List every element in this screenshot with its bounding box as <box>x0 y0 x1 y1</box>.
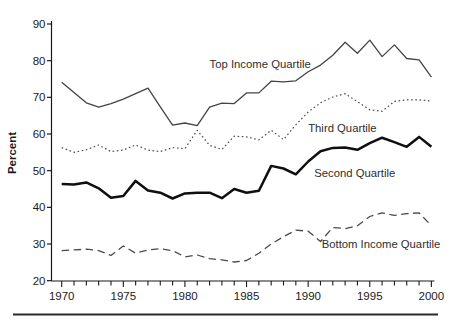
y-tick-label: 30 <box>33 238 46 250</box>
x-tick-label: 1990 <box>295 290 321 302</box>
series-label-top-income-quartile: Top Income Quartile <box>210 58 311 70</box>
x-tick-label: 1970 <box>49 290 75 302</box>
series-line-top-income-quartile <box>62 40 432 126</box>
y-tick-label: 90 <box>33 18 46 30</box>
chart-canvas: 2030405060708090197019751980198519901995… <box>0 0 458 323</box>
y-tick-label: 80 <box>33 55 46 67</box>
x-tick-label: 1985 <box>234 290 260 302</box>
series-lines <box>62 40 432 262</box>
x-tick-label: 1975 <box>111 290 137 302</box>
line-chart: 2030405060708090197019751980198519901995… <box>0 0 458 323</box>
series-label-bottom-income-quartile: Bottom Income Quartile <box>322 238 441 250</box>
y-tick-label: 60 <box>33 128 46 140</box>
y-tick-label: 70 <box>33 91 46 103</box>
x-tick-label: 1995 <box>357 290 383 302</box>
series-label-second-quartile: Second Quartile <box>314 167 395 179</box>
x-tick-label: 2000 <box>419 290 445 302</box>
y-tick-label: 40 <box>33 201 46 213</box>
series-label-third-quartile: Third Quartile <box>308 122 376 134</box>
chart-labels: Top Income QuartileThird QuartileSecond … <box>210 58 441 250</box>
x-tick-label: 1980 <box>172 290 198 302</box>
y-tick-label: 50 <box>33 165 46 177</box>
y-tick-label: 20 <box>33 275 46 287</box>
y-axis-title: Percent <box>6 132 18 174</box>
